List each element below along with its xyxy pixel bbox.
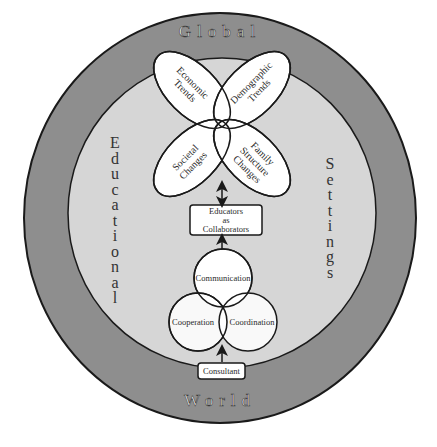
center-box-line-3: Collaborators (203, 224, 249, 234)
venn-label-coordination: Coordination (230, 317, 276, 327)
venn-label-cooperation: Cooperation (172, 317, 215, 327)
diagram-canvas: Global World Educational Settings Econom… (0, 0, 437, 447)
educators-collaborators-box[interactable]: Educators as Collaborators (190, 205, 262, 235)
venn-label-communication: Communication (196, 273, 252, 283)
ring-label-bottom: World (184, 391, 256, 410)
ring-label-top: Global (179, 22, 261, 41)
consultant-box[interactable]: Consultant (198, 363, 245, 379)
consultant-label: Consultant (203, 366, 240, 376)
